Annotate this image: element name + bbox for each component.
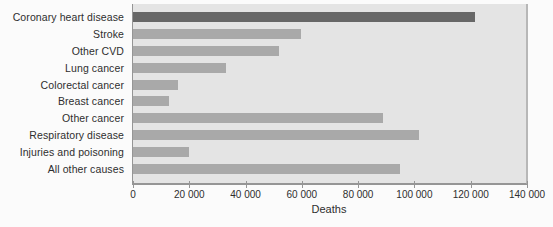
x-axis-tick-label: 0 (130, 189, 136, 200)
x-axis-tick-label: 60 000 (287, 189, 318, 200)
category-label: All other causes (0, 160, 128, 177)
bar-row (133, 110, 526, 127)
category-label: Coronary heart disease (0, 9, 128, 26)
x-axis-tick (302, 181, 303, 188)
x-axis-tick-label: 20 000 (174, 189, 205, 200)
x-axis-tick-label: 140 000 (509, 189, 545, 200)
x-axis: 020 00040 00060 00080 000100 000120 0001… (133, 185, 527, 203)
bar (133, 29, 301, 39)
x-axis-tick-label: 120 000 (453, 189, 489, 200)
x-axis-tick (133, 181, 134, 188)
category-label: Lung cancer (0, 59, 128, 76)
bar (133, 113, 383, 123)
bar-row (133, 59, 526, 76)
bar (133, 130, 419, 140)
x-axis-tick-label: 80 000 (343, 189, 374, 200)
y-axis-labels: Coronary heart diseaseStrokeOther CVDLun… (0, 4, 128, 183)
category-label: Stroke (0, 26, 128, 43)
deaths-by-cause-figure: Coronary heart diseaseStrokeOther CVDLun… (0, 0, 553, 227)
bar-row (133, 143, 526, 160)
x-axis-title: Deaths (132, 203, 526, 215)
bar-row (133, 26, 526, 43)
bar-row (133, 9, 526, 26)
bar (133, 147, 189, 157)
category-label: Other CVD (0, 43, 128, 60)
bar (133, 12, 475, 22)
bar-row (133, 76, 526, 93)
bar (133, 164, 400, 174)
x-axis-tick (527, 181, 528, 188)
plot-area (132, 4, 528, 185)
bar (133, 96, 169, 106)
bar (133, 46, 279, 56)
x-axis-tick (414, 181, 415, 188)
bar (133, 63, 226, 73)
x-axis-tick (246, 181, 247, 188)
bar-row (133, 43, 526, 60)
bar-row (133, 93, 526, 110)
category-label: Injuries and poisoning (0, 143, 128, 160)
x-axis-tick-label: 40 000 (230, 189, 261, 200)
category-label: Other cancer (0, 110, 128, 127)
x-axis-tick (358, 181, 359, 188)
category-label: Colorectal cancer (0, 76, 128, 93)
bar-row (133, 127, 526, 144)
bar-row (133, 160, 526, 177)
x-axis-tick (189, 181, 190, 188)
category-label: Breast cancer (0, 93, 128, 110)
x-axis-tick (471, 181, 472, 188)
bar (133, 80, 178, 90)
category-label: Respiratory disease (0, 127, 128, 144)
x-axis-tick-label: 100 000 (396, 189, 432, 200)
